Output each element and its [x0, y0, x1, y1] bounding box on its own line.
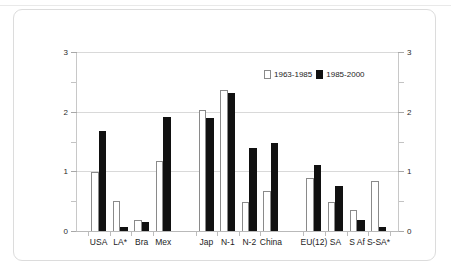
- bar-SAf-1963-1985: [350, 210, 358, 232]
- y-minor-tick-right-2.5: [399, 82, 404, 83]
- y-tick-left-2: [71, 112, 77, 113]
- window-top-strip: [0, 0, 451, 6]
- bar-N2-1963-1985: [242, 202, 250, 232]
- y-minor-tick-right-1.5: [399, 142, 404, 143]
- x-tick-SSA: [368, 232, 369, 236]
- bar-SSA-1963-1985: [371, 181, 379, 232]
- x-tick-N2: [239, 232, 240, 236]
- y-tick-label-right-2: 2: [407, 109, 411, 117]
- x-tick-SAf: [347, 232, 348, 236]
- y-minor-tick-right-0.5: [399, 201, 404, 202]
- bar-N1-1963-1985: [220, 90, 228, 232]
- x-axis-baseline: [76, 231, 399, 232]
- x-tick-label-Mex: Mex: [155, 237, 171, 248]
- y-tick-label-left-0: 0: [64, 228, 68, 236]
- x-tick-label-EU12: EU(12): [300, 237, 327, 248]
- bar-SA-1985-2000: [335, 186, 343, 232]
- x-tick-Mex: [153, 232, 154, 236]
- y-minor-tick-left-0.5: [71, 201, 76, 202]
- bar-Jap-1963-1985: [199, 110, 207, 232]
- y-minor-tick-left-1.5: [71, 142, 76, 143]
- y-tick-label-left-1: 1: [64, 168, 68, 176]
- x-tick-label-N2: N-2: [242, 237, 256, 248]
- y-tick-label-right-0: 0: [407, 228, 411, 236]
- legend-item-1: 1985-2000: [316, 70, 364, 79]
- x-tick-LA: [110, 232, 111, 236]
- x-tick-label-Jap: Jap: [199, 237, 213, 248]
- x-tick-label-USA: USA: [90, 237, 107, 248]
- bar-SA-1963-1985: [328, 202, 336, 232]
- y-tick-label-right-1: 1: [407, 168, 411, 176]
- y-tick-left-1: [71, 171, 77, 172]
- bar-N2-1985-2000: [249, 148, 257, 232]
- x-axis-labels: USALA*BraMexJapN-1N-2ChinaEU(12)SAS AfS-…: [76, 237, 399, 251]
- x-tick-SA: [325, 232, 326, 236]
- bar-Mex-1985-2000: [163, 117, 171, 232]
- x-tick-label-SSA: S-SA*: [367, 237, 390, 248]
- figure-card: 0123 0123 USALA*BraMexJapN-1N-2ChinaEU(1…: [13, 9, 436, 261]
- bar-USA-1985-2000: [99, 131, 107, 232]
- x-tick-label-Bra: Bra: [135, 237, 148, 248]
- x-tick-label-China: China: [260, 237, 282, 248]
- bar-EU12-1985-2000: [314, 165, 322, 232]
- x-tick-label-SAf: S Af: [349, 237, 365, 248]
- y-tick-right-1: [398, 171, 404, 172]
- x-tick-N1: [217, 232, 218, 236]
- legend-label-0: 1963-1985: [274, 70, 312, 79]
- page-bottom-margin: [0, 266, 451, 276]
- x-tick-label-LA: LA*: [113, 237, 127, 248]
- legend-swatch-1985-2000-icon: [316, 70, 323, 79]
- y-minor-tick-left-2.5: [71, 82, 76, 83]
- bar-China-1963-1985: [263, 191, 271, 232]
- x-tick-Jap: [196, 232, 197, 236]
- x-tick-USA: [88, 232, 89, 236]
- chart-legend: 1963-1985 1985-2000: [264, 68, 365, 80]
- bar-China-1985-2000: [271, 143, 279, 233]
- bar-EU12-1963-1985: [306, 178, 314, 232]
- y-tick-right-3: [398, 52, 404, 53]
- x-tick-Bra: [131, 232, 132, 236]
- x-tick-label-N1: N-1: [221, 237, 235, 248]
- y-tick-label-right-3: 3: [407, 49, 411, 57]
- y-tick-left-3: [71, 52, 77, 53]
- x-tick-label-SA: SA: [330, 237, 341, 248]
- x-tick-EU12: [303, 232, 304, 236]
- bar-Mex-1963-1985: [156, 161, 164, 232]
- y-tick-label-left-2: 2: [64, 109, 68, 117]
- bar-Jap-1985-2000: [206, 118, 214, 232]
- x-tick-end: [390, 232, 391, 236]
- x-tick-China: [260, 232, 261, 236]
- y-tick-right-2: [398, 112, 404, 113]
- bar-N1-1985-2000: [228, 93, 236, 232]
- y-tick-label-left-3: 3: [64, 49, 68, 57]
- legend-item-0: 1963-1985: [264, 70, 312, 79]
- legend-label-1: 1985-2000: [326, 70, 364, 79]
- legend-swatch-1963-1985-icon: [264, 70, 271, 79]
- bar-LA-1963-1985: [113, 201, 121, 232]
- bar-USA-1963-1985: [91, 172, 99, 232]
